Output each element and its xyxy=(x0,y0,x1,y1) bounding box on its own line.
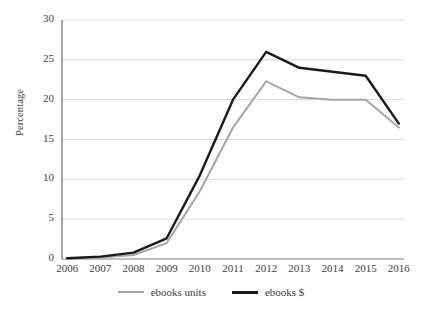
y-tick-label: 25 xyxy=(24,52,54,64)
legend-label-ebooks-dollars: ebooks $ xyxy=(265,286,304,298)
chart-legend: ebooks units ebooks $ xyxy=(0,286,422,298)
legend-item-ebooks-dollars: ebooks $ xyxy=(232,286,304,298)
legend-item-ebooks-units: ebooks units xyxy=(118,286,206,298)
line-swatch-gray-icon xyxy=(118,291,144,293)
y-tick-label: 20 xyxy=(24,92,54,104)
ebooks-share-line-chart: Percentage 302520151050 2006200720082009… xyxy=(0,0,422,310)
y-axis-title: Percentage xyxy=(14,68,25,158)
y-tick-label: 15 xyxy=(24,132,54,144)
y-tick-label: 5 xyxy=(24,211,54,223)
y-tick-label: 10 xyxy=(24,171,54,183)
line-swatch-black-icon xyxy=(232,291,258,294)
gridlines xyxy=(62,20,404,219)
x-tick-label: 2016 xyxy=(377,262,421,274)
series-line-ebooks-units xyxy=(67,81,399,258)
series-lines xyxy=(67,52,399,258)
legend-label-ebooks-units: ebooks units xyxy=(151,286,206,298)
series-line-ebooks- xyxy=(67,52,399,258)
y-tick-label: 30 xyxy=(24,12,54,24)
